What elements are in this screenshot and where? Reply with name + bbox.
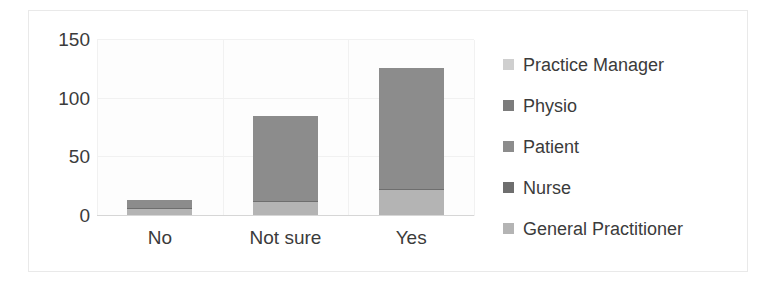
x-axis-tick-label: No: [97, 228, 223, 247]
x-axis-tick-label: Yes: [348, 228, 474, 247]
bar-segment[interactable]: [127, 200, 192, 208]
legend-swatch-icon: [503, 182, 514, 193]
legend-item-label: Physio: [523, 97, 577, 115]
x-axis: No Not sure Yes: [97, 228, 474, 256]
bar-stack[interactable]: [253, 116, 318, 216]
legend-swatch-icon: [503, 223, 514, 234]
legend-swatch-icon: [503, 59, 514, 70]
gridline-vertical: [474, 40, 475, 216]
legend-item[interactable]: General Practitioner: [503, 208, 743, 249]
y-axis-tick-label: 150: [58, 30, 90, 49]
bar-segment[interactable]: [379, 190, 444, 216]
x-axis-line: [97, 215, 474, 216]
gridline-vertical: [223, 40, 224, 216]
y-axis-tick-label: 0: [79, 206, 90, 225]
plot-area: [97, 40, 474, 216]
bar-stack[interactable]: [127, 200, 192, 216]
legend-swatch-icon: [503, 100, 514, 111]
legend-item[interactable]: Practice Manager: [503, 44, 743, 85]
y-axis-tick-label: 100: [58, 89, 90, 108]
legend-item-label: Patient: [523, 138, 579, 156]
legend-item[interactable]: Patient: [503, 126, 743, 167]
legend-item-label: General Practitioner: [523, 220, 683, 238]
legend-item-label: Nurse: [523, 179, 571, 197]
bar-stack[interactable]: [379, 68, 444, 216]
gridline-vertical: [348, 40, 349, 216]
y-axis: 150 100 50 0: [30, 28, 90, 228]
chart-legend: Practice Manager Physio Patient Nurse Ge…: [503, 44, 743, 249]
legend-item[interactable]: Physio: [503, 85, 743, 126]
bar-segment[interactable]: [253, 202, 318, 216]
legend-swatch-icon: [503, 141, 514, 152]
legend-item-label: Practice Manager: [523, 56, 664, 74]
bar-segment[interactable]: [379, 68, 444, 189]
bar-segment[interactable]: [253, 116, 318, 200]
y-axis-tick-label: 50: [69, 147, 90, 166]
gridline-horizontal: [97, 39, 474, 40]
chart-figure: 150 100 50 0 No Not sure Yes Practice Ma…: [0, 0, 776, 294]
x-axis-tick-label: Not sure: [223, 228, 349, 247]
legend-item[interactable]: Nurse: [503, 167, 743, 208]
gridline-vertical: [97, 40, 98, 216]
